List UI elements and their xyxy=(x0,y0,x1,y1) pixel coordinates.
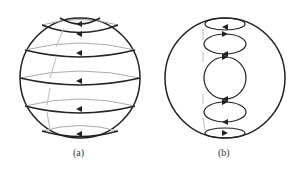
diagram-canvas xyxy=(0,0,301,169)
sphere-b xyxy=(165,18,285,138)
panel-label-b: (b) xyxy=(218,147,230,158)
sphere-a xyxy=(20,18,140,138)
panel-label-a: (a) xyxy=(73,147,84,158)
